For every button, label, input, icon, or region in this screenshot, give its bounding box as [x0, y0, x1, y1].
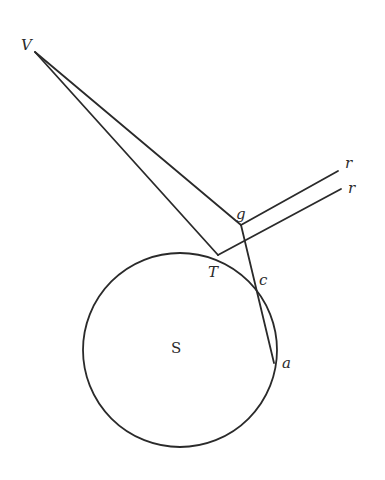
label-r-upper: r: [345, 154, 353, 172]
label-a: a: [282, 354, 291, 372]
label-t: T: [208, 263, 219, 281]
label-s: S: [171, 339, 181, 357]
label-v: V: [21, 36, 34, 54]
line-g-a: [241, 225, 274, 363]
label-r-lower: r: [348, 179, 356, 197]
line-v-t: [35, 52, 218, 255]
label-c: c: [259, 271, 268, 289]
line-v-g: [35, 52, 241, 225]
label-g: g: [236, 205, 246, 223]
geometry-diagram: V g r r T c a S: [0, 0, 385, 480]
